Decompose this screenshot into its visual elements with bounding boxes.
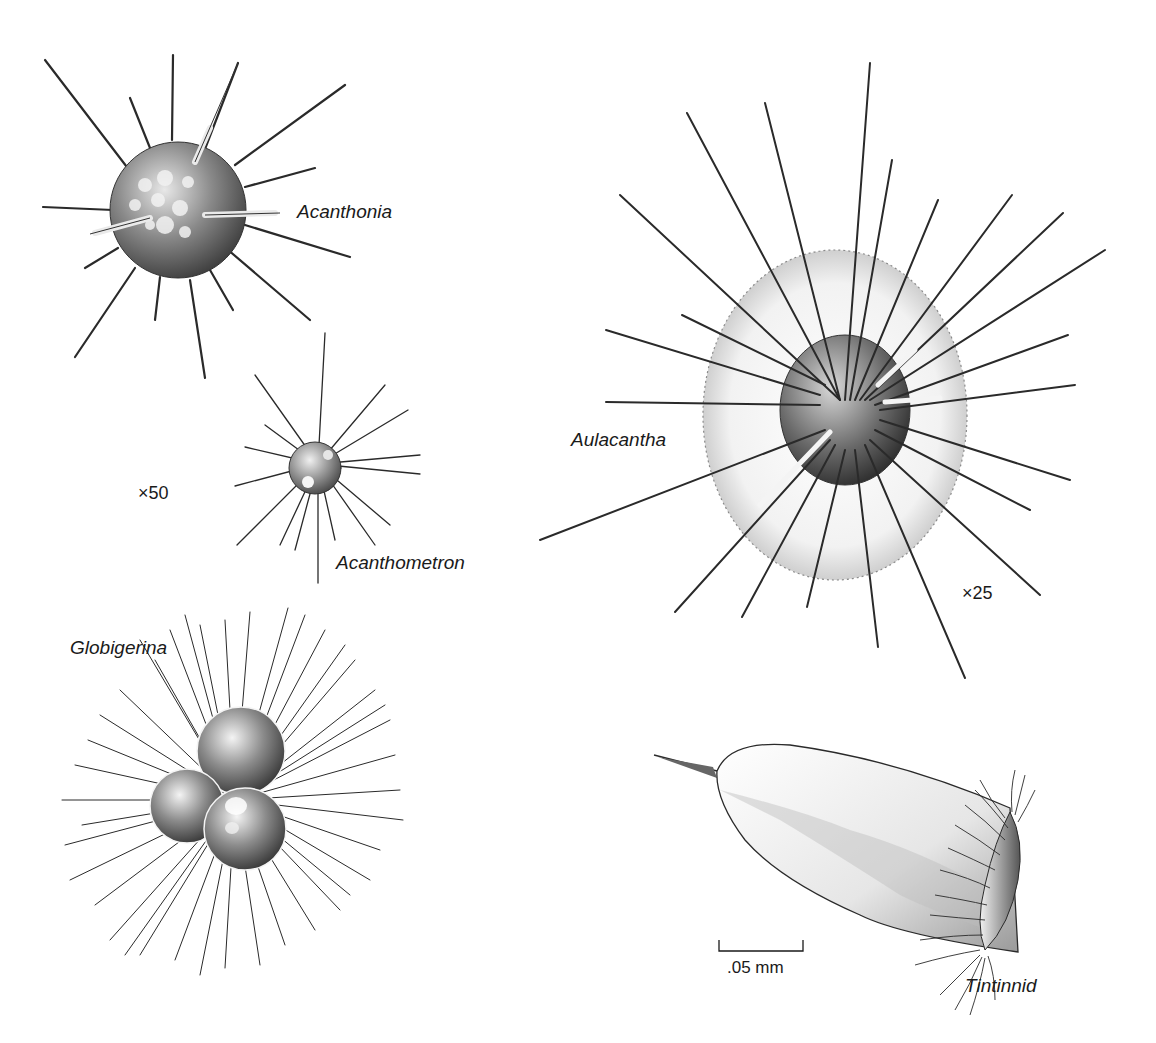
- scale-bar: [719, 940, 803, 951]
- acanthometron-figure: [235, 333, 420, 583]
- magnification-x50: ×50: [138, 483, 169, 504]
- illustration-canvas: [0, 0, 1156, 1043]
- label-tintinnid: Tintinnid: [965, 975, 1037, 997]
- label-globigerina: Globigerina: [70, 637, 167, 659]
- label-acanthometron: Acanthometron: [336, 552, 465, 574]
- aulacantha-figure: [540, 63, 1105, 678]
- label-acanthonia: Acanthonia: [297, 201, 392, 223]
- globigerina-figure: [62, 608, 403, 975]
- illustration-plate: Acanthonia Acanthometron Aulacantha Glob…: [0, 0, 1156, 1043]
- magnification-x25: ×25: [962, 583, 993, 604]
- scale-bar-label: .05 mm: [727, 958, 784, 978]
- label-aulacantha: Aulacantha: [571, 429, 666, 451]
